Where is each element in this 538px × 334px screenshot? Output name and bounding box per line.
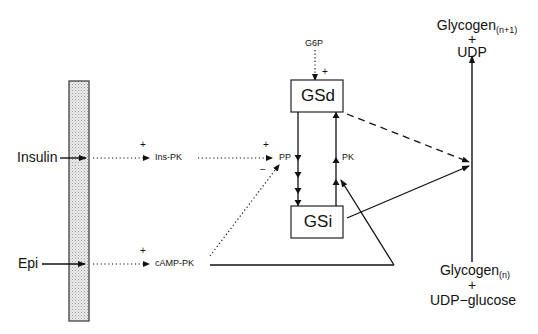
substrate-plus: + xyxy=(462,277,482,293)
plus-sign-epi: + xyxy=(140,245,146,256)
camppk-to-pk-arrow xyxy=(341,180,394,265)
gsi-label: GSi xyxy=(296,212,340,232)
substrate-glycogen-subscript: (n) xyxy=(499,270,510,280)
product-udp: UDP xyxy=(447,44,497,60)
product-glycogen-subscript: (n+1) xyxy=(496,25,517,35)
pk-label: PK xyxy=(342,152,354,162)
substrate-udp-glucose: UDP−glucose xyxy=(428,292,518,308)
gsi-to-synthesis-arrow xyxy=(347,166,469,218)
plus-sign-insulin: + xyxy=(140,139,146,150)
pk-phosphorylation-path xyxy=(333,112,340,206)
gsd-to-synthesis-arrow xyxy=(347,114,469,162)
cell-membrane xyxy=(69,81,89,321)
gsd-label: GSd xyxy=(296,86,340,106)
camp-pk-label: cAMP-PK xyxy=(155,258,194,268)
camppk-to-pp-arrow xyxy=(210,165,279,256)
substrate-glycogen-text: Glycogen xyxy=(440,262,499,278)
pp-label: PP xyxy=(279,152,291,162)
insulin-label: Insulin xyxy=(17,149,57,165)
plus-sign-pp: + xyxy=(263,139,269,150)
pp-dephosphorylation-path xyxy=(295,112,302,206)
plus-sign-g6p: + xyxy=(322,66,328,77)
g6p-label: G6P xyxy=(305,38,323,48)
epi-label: Epi xyxy=(18,255,38,271)
ins-pk-label: Ins-PK xyxy=(155,152,182,162)
minus-sign-pp: − xyxy=(260,164,266,175)
